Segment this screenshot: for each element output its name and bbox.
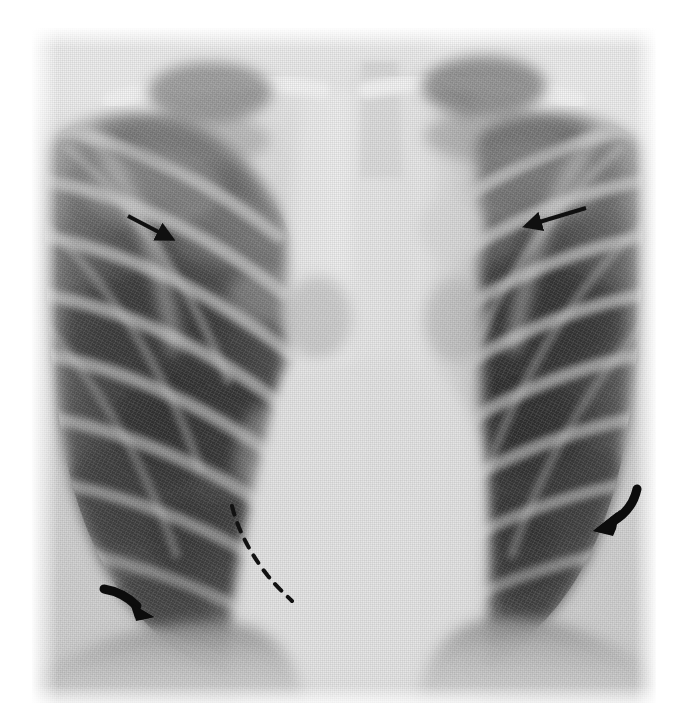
chest-xray-image bbox=[32, 28, 656, 703]
radiograph-page: X-ray frontal-pa bbox=[0, 0, 677, 727]
xray-anatomy-layer bbox=[32, 28, 656, 703]
